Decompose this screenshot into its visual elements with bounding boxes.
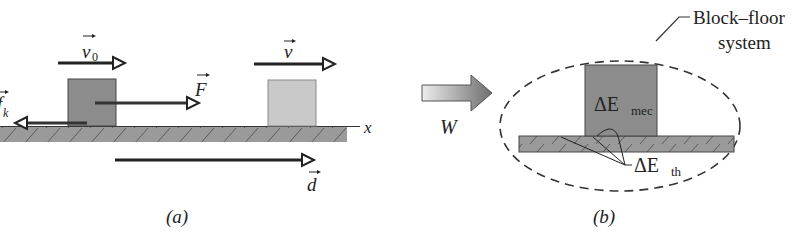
panel-a-caption: (a) [166,206,188,228]
svg-text:F: F [194,79,207,100]
floor-b [519,136,734,152]
displacement-label: d [307,170,321,195]
panel-b-caption: (b) [593,206,615,228]
system-label-line2: system [718,32,771,53]
system-label-line1: Block–floor [693,7,785,28]
svg-text:ΔE: ΔE [594,93,619,115]
work-label: W [440,116,459,138]
x-axis-label: x [363,118,372,137]
floor-a [0,126,347,142]
work-friction-figure: x v 0 F f [0,0,807,236]
system-label-leader [656,17,690,41]
friction-label: f k [0,90,9,120]
panel-b: ΔE mec ΔE th W Block–floor system (b) [422,7,785,228]
applied-force-label: F [194,73,210,100]
work-arrow-icon [422,75,492,111]
thermal-energy-label: ΔE th [634,154,682,179]
svg-text:k: k [3,106,9,120]
final-velocity-label: v [284,39,296,62]
svg-text:0: 0 [92,50,98,64]
final-velocity-arrow-icon [254,58,335,70]
svg-text:ΔE: ΔE [634,154,659,176]
svg-text:v: v [82,41,91,62]
svg-text:th: th [671,164,682,179]
svg-text:v: v [284,41,293,62]
block-final [268,80,316,126]
displacement-arrow-icon [115,154,314,166]
svg-text:mec: mec [631,103,653,118]
svg-text:d: d [307,174,317,195]
initial-velocity-label: v 0 [82,34,98,64]
panel-a: x v 0 F f [0,34,372,228]
